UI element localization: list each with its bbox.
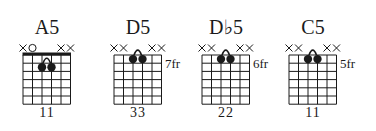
muted-string-icon bbox=[158, 45, 165, 52]
chord-db5: D♭5 6fr 22 bbox=[181, 0, 271, 131]
barre-arc-icon bbox=[43, 58, 51, 63]
chord-grid bbox=[2, 38, 92, 108]
muted-string-icon bbox=[120, 45, 127, 52]
barre-arc-icon bbox=[309, 50, 317, 55]
chord-grid bbox=[93, 38, 183, 108]
fret-position-label: 7fr bbox=[165, 57, 180, 71]
chord-d5: D5 7fr 33 bbox=[93, 0, 183, 131]
nut bbox=[23, 53, 72, 56]
muted-string-icon bbox=[324, 45, 331, 52]
finger-dot-icon bbox=[313, 55, 321, 63]
muted-string-icon bbox=[286, 45, 293, 52]
open-string-icon bbox=[29, 44, 36, 51]
chord-fingering: 11 bbox=[2, 105, 92, 121]
barre-arc-icon bbox=[222, 50, 230, 55]
fret-position-label: 6fr bbox=[253, 57, 268, 71]
finger-dot-icon bbox=[226, 55, 234, 63]
muted-string-icon bbox=[199, 45, 206, 52]
muted-string-icon bbox=[333, 45, 340, 52]
chord-grid bbox=[268, 38, 358, 108]
muted-string-icon bbox=[237, 45, 244, 52]
finger-dot-icon bbox=[217, 55, 225, 63]
chord-c5: C5 5fr 11 bbox=[268, 0, 358, 131]
muted-string-icon bbox=[295, 45, 302, 52]
barre-arc-icon bbox=[134, 50, 142, 55]
finger-dot-icon bbox=[129, 55, 137, 63]
chord-a5: A5 11 bbox=[2, 0, 92, 131]
muted-string-icon bbox=[20, 45, 27, 52]
finger-dot-icon bbox=[38, 63, 46, 71]
muted-string-icon bbox=[67, 45, 74, 52]
chord-fingering: 11 bbox=[268, 105, 358, 121]
muted-string-icon bbox=[111, 45, 118, 52]
chord-name: D♭5 bbox=[181, 16, 271, 38]
chord-name: C5 bbox=[268, 16, 358, 38]
chord-fingering: 33 bbox=[93, 105, 183, 121]
finger-dot-icon bbox=[47, 63, 55, 71]
chord-fingering: 22 bbox=[181, 105, 271, 121]
chord-name: A5 bbox=[2, 16, 92, 38]
chord-name: D5 bbox=[93, 16, 183, 38]
finger-dot-icon bbox=[304, 55, 312, 63]
muted-string-icon bbox=[149, 45, 156, 52]
muted-string-icon bbox=[58, 45, 65, 52]
fret-position-label: 5fr bbox=[340, 57, 355, 71]
muted-string-icon bbox=[246, 45, 253, 52]
chord-grid bbox=[181, 38, 271, 108]
finger-dot-icon bbox=[138, 55, 146, 63]
muted-string-icon bbox=[208, 45, 215, 52]
